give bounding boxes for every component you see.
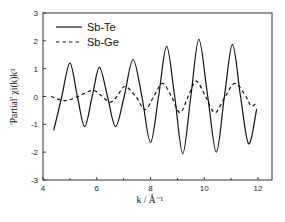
- series-sb-te: [54, 39, 257, 153]
- series-lines: [51, 39, 257, 153]
- x-tick-label: 10: [200, 184, 209, 193]
- x-axis: 4681012: [41, 177, 263, 193]
- y-axis-label: 'Partial' χi(k)k³: [9, 69, 20, 125]
- chart: 3210-1-2-3 4681012 Sb-Te Sb-Ge k / Å⁻¹ '…: [0, 0, 285, 222]
- legend-label-sb-ge: Sb-Ge: [87, 36, 119, 48]
- x-tick-label: 6: [95, 184, 100, 193]
- x-tick-label: 12: [254, 184, 263, 193]
- y-tick-label: -1: [31, 120, 39, 129]
- y-tick-label: 3: [34, 9, 39, 18]
- y-tick-label: -3: [31, 176, 39, 185]
- x-axis-label: k / Å⁻¹: [137, 194, 164, 205]
- x-tick-label: 4: [41, 184, 46, 193]
- y-tick-label: 0: [34, 93, 39, 102]
- y-axis: 3210-1-2-3: [31, 9, 46, 185]
- legend: Sb-Te Sb-Ge: [56, 21, 119, 48]
- y-tick-label: 1: [34, 65, 39, 74]
- x-tick-label: 8: [148, 184, 153, 193]
- legend-label-sb-te: Sb-Te: [87, 21, 116, 33]
- y-tick-label: 2: [34, 37, 39, 46]
- y-tick-label: -2: [31, 148, 39, 157]
